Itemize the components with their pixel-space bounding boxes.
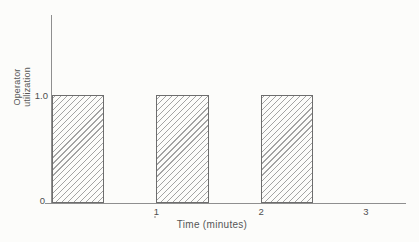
print-artifact-dot [154, 216, 156, 218]
operator-utilization-chart: Operator utilization 1.0 0 123 Time (min… [0, 0, 419, 242]
y-axis-title-line-1: Operator [12, 67, 22, 107]
utilization-bar-1 [52, 95, 104, 203]
x-tick-label-3: 3 [363, 206, 368, 217]
origin-label: 0 [30, 195, 45, 206]
x-tick-label-1: 1 [154, 206, 159, 217]
utilization-bar-2 [156, 95, 208, 203]
x-axis-line [45, 203, 406, 204]
utilization-bar-3 [261, 95, 313, 203]
x-tick-label-2: 2 [258, 206, 263, 217]
x-axis-title: Time (minutes) [177, 219, 248, 230]
y-tick-label: 1.0 [28, 90, 48, 101]
